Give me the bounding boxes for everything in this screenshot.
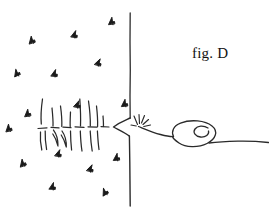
canvas-background: [0, 0, 269, 224]
figure-container: fig. D: [0, 0, 269, 224]
figure-caption-label: fig. D: [192, 45, 228, 62]
figure-drawing-canvas: [0, 0, 269, 224]
